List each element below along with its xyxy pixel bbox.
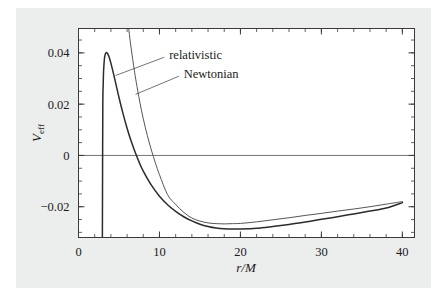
y-axis-title-subscript: eff xyxy=(36,124,46,134)
x-axis-title: r/M xyxy=(236,260,257,275)
x-tick-label: 10 xyxy=(153,245,166,259)
plot-area: 010203040 −0.0200.020.04 relativistic Ne… xyxy=(0,0,447,296)
x-tick-label: 20 xyxy=(234,245,247,259)
y-tick-label: 0.04 xyxy=(48,46,71,60)
y-tick-label: 0 xyxy=(63,149,69,163)
x-tick-label: 0 xyxy=(75,245,81,259)
x-tick-label: 40 xyxy=(396,245,409,259)
x-axis-tick-labels: 010203040 xyxy=(75,245,408,259)
y-tick-label: 0.02 xyxy=(48,98,70,112)
x-tick-label: 30 xyxy=(315,245,328,259)
svg-text:Veff: Veff xyxy=(29,124,46,142)
y-tick-label: −0.02 xyxy=(41,200,70,214)
figure-page: 010203040 −0.0200.020.04 relativistic Ne… xyxy=(0,0,447,296)
annotation-label-relativistic: relativistic xyxy=(169,48,222,62)
y-axis-title: Veff xyxy=(29,124,46,142)
annotation-label-newtonian: Newtonian xyxy=(184,67,240,81)
